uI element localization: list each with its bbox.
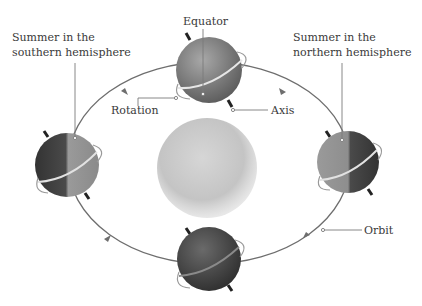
orbit-label: Orbit (364, 223, 393, 238)
earth-right (317, 131, 382, 195)
summer-north-line1: Summer in the (293, 30, 411, 45)
sun (157, 118, 257, 218)
summer-south-label: Summer in the southern hemisphere (12, 30, 131, 60)
orbit-diagram: Equator Summer in the southern hemispher… (0, 0, 422, 306)
summer-north-label: Summer in the northern hemisphere (293, 30, 411, 60)
earth-top (176, 33, 246, 107)
summer-south-line1: Summer in the (12, 30, 131, 45)
earth-bottom (177, 227, 244, 291)
axis-label: Axis (271, 103, 294, 118)
orbit-arrow-icon (121, 88, 128, 95)
orbit-arrow-icon (279, 88, 286, 95)
earth-left (35, 131, 102, 199)
rotation-label: Rotation (111, 103, 159, 118)
orbit-arrow-icon (104, 235, 111, 242)
summer-north-line2: northern hemisphere (293, 45, 411, 60)
orbit-arrow-icon (303, 232, 310, 238)
summer-south-line2: southern hemisphere (12, 45, 131, 60)
equator-label: Equator (183, 14, 228, 29)
